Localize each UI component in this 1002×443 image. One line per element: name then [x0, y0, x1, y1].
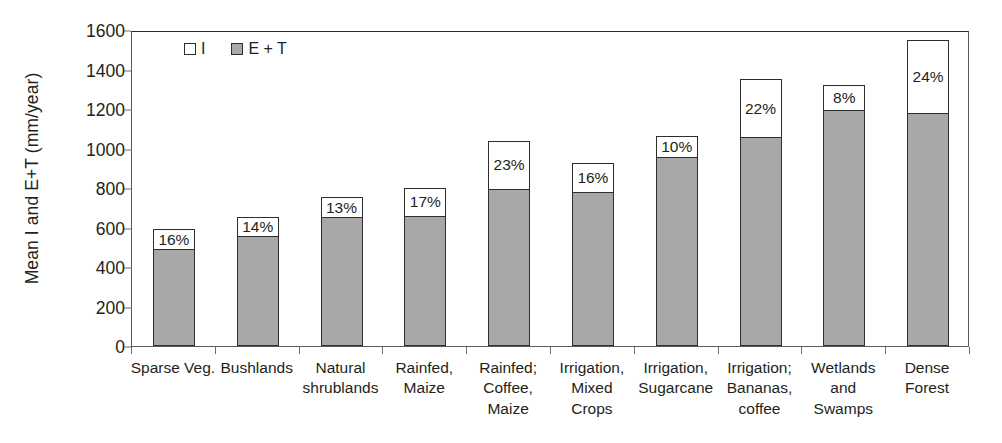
x-axis-label-line: Coffee, [462, 378, 554, 398]
bar-group[interactable]: 24% [907, 30, 949, 346]
y-tick-label: 1600 [55, 21, 125, 42]
x-axis-label-line: Bananas, [714, 378, 806, 398]
x-axis-label-line: Sugarcane [630, 378, 722, 398]
y-tick-label: 1200 [55, 100, 125, 121]
bar-data-label: 16% [153, 232, 195, 248]
x-axis-label-line: Rainfed; [462, 358, 554, 378]
bar-segment-et[interactable] [823, 110, 865, 346]
x-axis-label: Naturalshrublands [295, 358, 387, 399]
y-tick-label: 800 [55, 179, 125, 200]
bar-data-label: 16% [572, 170, 614, 186]
bar-data-label: 13% [321, 200, 363, 216]
x-tick-mark [801, 347, 802, 354]
bar-group[interactable]: 16% [153, 30, 195, 346]
bar-segment-et[interactable] [740, 137, 782, 346]
legend-item-i: I [184, 40, 205, 58]
bar-data-label: 10% [656, 139, 698, 155]
y-tick-label: 400 [55, 258, 125, 279]
x-axis-label: Bushlands [211, 358, 303, 378]
bar-segment-et[interactable] [656, 157, 698, 346]
y-tick-mark [124, 70, 131, 71]
x-tick-mark [382, 347, 383, 354]
y-tick-label: 600 [55, 218, 125, 239]
legend-label-et: E + T [248, 40, 286, 58]
chart-legend: I E + T [184, 40, 287, 58]
x-axis-label-line: Natural [295, 358, 387, 378]
bar-segment-et[interactable] [572, 192, 614, 346]
legend-swatch-i-icon [184, 43, 196, 55]
y-tick-mark [124, 149, 131, 150]
y-tick-mark [124, 228, 131, 229]
bar-segment-et[interactable] [488, 189, 530, 346]
x-tick-mark [969, 347, 970, 354]
bar-segment-et[interactable] [153, 249, 195, 346]
y-tick-label: 1000 [55, 139, 125, 160]
x-axis-label-line: Bushlands [211, 358, 303, 378]
bar-group[interactable]: 8% [823, 30, 865, 346]
bar-group[interactable]: 10% [656, 30, 698, 346]
legend-item-et: E + T [231, 40, 286, 58]
bar-segment-et[interactable] [404, 216, 446, 346]
bar-segment-et[interactable] [907, 113, 949, 346]
legend-label-i: I [201, 40, 205, 58]
x-axis-label-line: Maize [462, 399, 554, 419]
bar-segment-et[interactable] [237, 236, 279, 346]
x-tick-mark [215, 347, 216, 354]
x-axis-label-line: Forest [881, 378, 973, 398]
y-tick-mark [124, 110, 131, 111]
x-axis-label-line: Sparse Veg. [127, 358, 219, 378]
x-axis-label-line: Mixed [546, 378, 638, 398]
bar-segment-et[interactable] [321, 217, 363, 346]
x-axis-label: Irrigation;Bananas,coffee [714, 358, 806, 419]
y-tick-label: 1400 [55, 60, 125, 81]
x-axis-label: Irrigation,Sugarcane [630, 358, 722, 399]
x-axis-label: Irrigation,MixedCrops [546, 358, 638, 419]
x-axis-label-line: Irrigation, [630, 358, 722, 378]
bar-data-label: 14% [237, 219, 279, 235]
x-axis-label-line: Irrigation, [546, 358, 638, 378]
y-tick-mark [124, 307, 131, 308]
x-axis-label: Sparse Veg. [127, 358, 219, 378]
x-axis-label-line: shrublands [295, 378, 387, 398]
x-axis-label-line: Rainfed, [378, 358, 470, 378]
x-axis-label: Rainfed,Maize [378, 358, 470, 399]
bar-data-label: 22% [740, 101, 782, 117]
x-axis-label: DenseForest [881, 358, 973, 399]
x-axis-label-line: Irrigation; [714, 358, 806, 378]
x-tick-mark [885, 347, 886, 354]
plot-area: 16%14%13%17%23%16%10%22%8%24% [131, 31, 969, 347]
y-tick-mark [124, 347, 131, 348]
x-axis-label-line: Dense [881, 358, 973, 378]
bar-group[interactable]: 13% [321, 30, 363, 346]
x-axis-label-line: Maize [378, 378, 470, 398]
y-tick-label: 200 [55, 297, 125, 318]
y-tick-mark [124, 268, 131, 269]
bar-group[interactable]: 23% [488, 30, 530, 346]
x-axis-label: Rainfed;Coffee,Maize [462, 358, 554, 419]
x-tick-mark [131, 347, 132, 354]
x-axis-label-line: coffee [714, 399, 806, 419]
x-axis-label-line: Swamps [797, 399, 889, 419]
bar-group[interactable]: 17% [404, 30, 446, 346]
bar-data-label: 8% [823, 90, 865, 106]
x-axis-label: WetlandsandSwamps [797, 358, 889, 419]
x-tick-mark [634, 347, 635, 354]
x-axis-label-line: and [797, 378, 889, 398]
bar-group[interactable]: 16% [572, 30, 614, 346]
y-axis-title: Mean I and E+T (mm/year) [22, 29, 43, 329]
y-tick-mark [124, 31, 131, 32]
chart-container: Mean I and E+T (mm/year) 020040060080010… [0, 0, 1002, 443]
bar-data-label: 17% [404, 194, 446, 210]
y-tick-label: 0 [55, 337, 125, 358]
x-axis-label-line: Crops [546, 399, 638, 419]
bar-group[interactable]: 22% [740, 30, 782, 346]
bar-group[interactable]: 14% [237, 30, 279, 346]
y-tick-mark [124, 189, 131, 190]
x-axis-label-line: Wetlands [797, 358, 889, 378]
x-tick-mark [550, 347, 551, 354]
x-tick-mark [466, 347, 467, 354]
x-tick-mark [299, 347, 300, 354]
legend-swatch-et-icon [231, 43, 243, 55]
bar-data-label: 23% [488, 157, 530, 173]
bar-data-label: 24% [907, 69, 949, 85]
